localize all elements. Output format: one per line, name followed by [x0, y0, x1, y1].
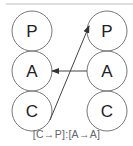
- left-node-p: P: [12, 11, 52, 51]
- left-node-a: A: [12, 51, 52, 91]
- caption: [C→P]:[A→A]: [0, 128, 133, 140]
- node-label: P: [26, 22, 37, 41]
- right-node-c: C: [87, 91, 127, 131]
- node-label: P: [101, 22, 112, 41]
- left-node-c: C: [12, 91, 52, 131]
- node-label: A: [26, 62, 38, 81]
- diagram-canvas: PACPAC: [0, 0, 133, 146]
- node-label: C: [26, 102, 38, 121]
- node-label: C: [101, 102, 113, 121]
- right-node-p: P: [87, 11, 127, 51]
- node-label: A: [101, 62, 113, 81]
- arrow-c-to-p: [50, 26, 89, 120]
- right-node-a: A: [87, 51, 127, 91]
